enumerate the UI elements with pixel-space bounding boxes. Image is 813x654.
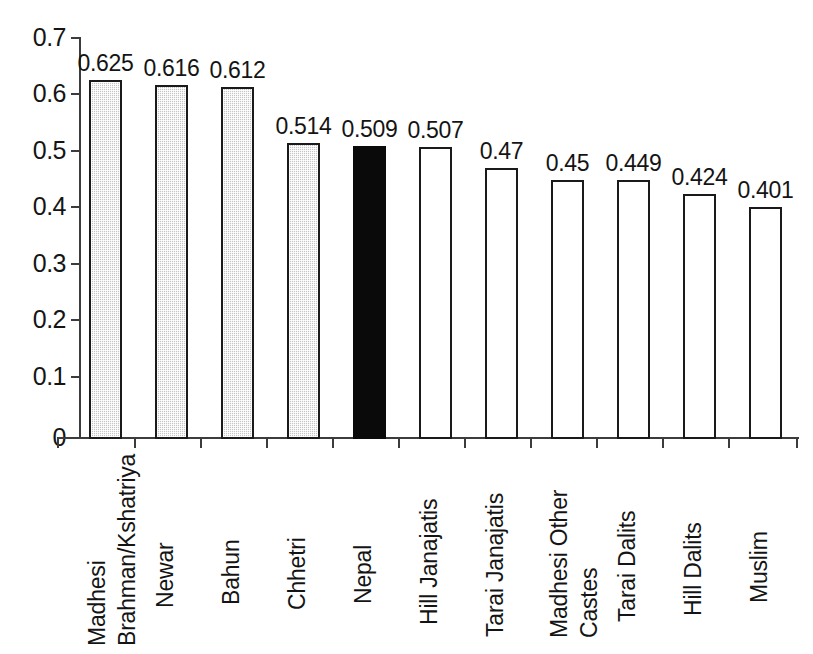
x-tick-mark	[332, 437, 334, 448]
y-tick-label: 0.3	[8, 251, 66, 276]
x-tick-mark	[398, 437, 400, 448]
x-tick-mark	[662, 437, 664, 448]
x-category-label-hill-janajatis: Hill Janajatis	[416, 499, 442, 625]
y-tick-group-0.3: 0.3	[0, 251, 66, 276]
bar-newar	[155, 85, 188, 439]
x-category-label-line1: Hill Dalits	[680, 522, 706, 616]
x-category-label-line1: Tarai Janajatis	[482, 493, 508, 637]
x-category-label-line1: Tarai Dalits	[614, 511, 640, 622]
y-tick-label: 0.7	[8, 25, 66, 50]
x-tick-mark	[464, 437, 466, 448]
x-category-label-line2: Castes	[574, 490, 604, 638]
x-category-label-line2: Brahman/Kshatriya	[112, 454, 142, 646]
x-category-label-tarai-dalits: Tarai Dalits	[614, 511, 640, 622]
x-category-label-line1: Bahun	[218, 539, 244, 605]
x-category-label-madhesi-brahman-kshatriya: Madhesi Brahman/Kshatriya	[82, 454, 142, 646]
x-tick-mark	[266, 437, 268, 448]
x-tick-mark	[530, 437, 532, 448]
bar-chart: 0.7 0.6 0.5 0.4 0.3 0.2 0.1 0	[0, 0, 813, 654]
bar-tarai-janajatis	[485, 168, 518, 439]
bar-madhesi-brahman-kshatriya	[89, 80, 122, 439]
y-tick-group-0.6: 0.6	[0, 81, 66, 106]
x-category-label-line1: Madhesi	[84, 560, 110, 646]
value-label-bahun: 0.612	[189, 59, 286, 82]
y-tick-mark	[71, 376, 80, 378]
x-category-label-line1: Chhetri	[284, 537, 310, 610]
y-tick-mark	[71, 263, 80, 265]
y-tick-label: 0.2	[8, 307, 66, 332]
x-category-label-line1: Nepal	[350, 545, 376, 604]
value-label-muslim: 0.401	[717, 179, 813, 202]
x-tick-mark	[200, 437, 202, 448]
x-category-label-line1: Hill Janajatis	[416, 499, 442, 625]
bar-hill-dalits	[683, 194, 716, 439]
bar-tarai-dalits	[617, 180, 650, 439]
x-category-label-chhetri: Chhetri	[284, 537, 310, 610]
x-category-label-line1: Madhesi Other	[546, 490, 572, 638]
x-category-label-tarai-janajatis: Tarai Janajatis	[482, 493, 508, 637]
bar-muslim	[749, 207, 782, 439]
y-tick-label: 0.5	[8, 138, 66, 163]
bar-madhesi-other-castes	[551, 180, 584, 439]
y-tick-mark	[71, 93, 80, 95]
bar-chhetri	[287, 143, 320, 439]
x-tick-mark	[596, 437, 598, 448]
y-tick-mark	[71, 319, 80, 321]
value-label-hill-janajatis: 0.507	[387, 119, 484, 142]
x-tick-mark	[134, 437, 136, 448]
x-tick-mark	[728, 437, 730, 448]
y-tick-mark	[71, 37, 80, 39]
y-tick-group-0.5: 0.5	[0, 138, 66, 163]
y-tick-group-0.4: 0.4	[0, 194, 66, 219]
y-tick-group-0.1: 0.1	[0, 364, 66, 389]
y-tick-label: 0.4	[8, 194, 66, 219]
bar-nepal	[353, 146, 386, 439]
x-tick-mark	[796, 437, 798, 448]
x-category-label-line1: Muslim	[746, 531, 772, 603]
bar-hill-janajatis	[419, 147, 452, 439]
y-tick-mark	[71, 206, 80, 208]
y-tick-label: 0.6	[8, 81, 66, 106]
x-category-label-line1: Newar	[152, 543, 178, 608]
bar-bahun	[221, 87, 254, 439]
x-category-label-muslim: Muslim	[746, 531, 772, 603]
x-category-label-bahun: Bahun	[218, 539, 244, 605]
y-tick-group-0.7: 0.7	[0, 25, 66, 50]
y-tick-label: 0.1	[8, 364, 66, 389]
x-category-label-nepal: Nepal	[350, 545, 376, 604]
y-tick-group-0.2: 0.2	[0, 307, 66, 332]
y-tick-mark	[71, 150, 80, 152]
x-tick-mark	[57, 437, 59, 448]
x-category-label-newar: Newar	[152, 543, 178, 608]
x-category-label-madhesi-other-castes: Madhesi Other Castes	[544, 490, 604, 638]
x-category-label-hill-dalits: Hill Dalits	[680, 522, 706, 616]
